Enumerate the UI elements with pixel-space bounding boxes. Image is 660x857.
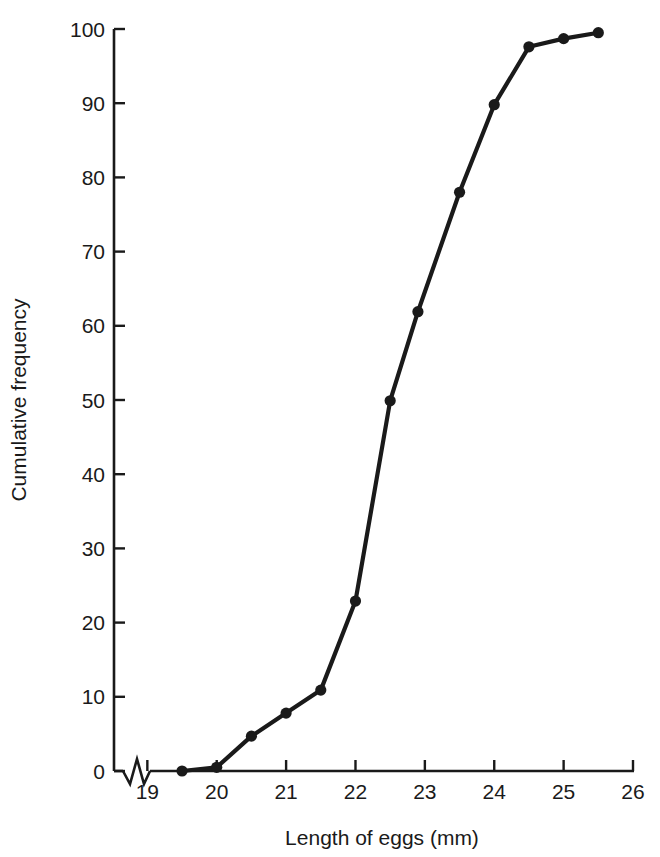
data-point [523, 41, 534, 52]
x-axis-tick-label: 25 [552, 780, 575, 803]
data-point [281, 708, 292, 719]
y-axis-tick-label: 100 [70, 18, 105, 41]
x-axis-tick-label: 19 [136, 780, 159, 803]
y-axis-tick-label: 80 [82, 166, 105, 189]
y-axis: 0102030405060708090100 [70, 18, 125, 783]
data-point [211, 762, 222, 773]
x-axis-tick-label: 22 [344, 780, 367, 803]
y-axis-tick-label: 0 [93, 760, 105, 783]
y-axis-tick-label: 20 [82, 611, 105, 634]
y-axis-tick-label: 60 [82, 314, 105, 337]
x-axis-title: Length of eggs (mm) [285, 826, 479, 849]
data-point [315, 685, 326, 696]
data-point [412, 306, 423, 317]
data-point [593, 27, 604, 38]
data-point [385, 395, 396, 406]
y-axis-tick-label: 10 [82, 685, 105, 708]
x-axis-tick-label: 21 [274, 780, 297, 803]
data-point [246, 731, 257, 742]
x-axis: 1920212223242526 [114, 760, 645, 803]
cumulative-frequency-chart: 0102030405060708090100 1920212223242526 … [0, 0, 660, 857]
y-axis-tick-label: 50 [82, 389, 105, 412]
x-axis-tick-label: 20 [205, 780, 228, 803]
x-axis-tick-label: 24 [483, 780, 507, 803]
y-axis-tick-label: 40 [82, 463, 105, 486]
data-series [176, 27, 603, 776]
data-point [489, 99, 500, 110]
y-axis-tick-label: 30 [82, 537, 105, 560]
data-point [454, 187, 465, 198]
y-axis-tick-label: 90 [82, 92, 105, 115]
y-axis-title: Cumulative frequency [7, 298, 30, 502]
x-axis-tick-label: 23 [413, 780, 436, 803]
y-axis-tick-label: 70 [82, 240, 105, 263]
chart-canvas: 0102030405060708090100 1920212223242526 … [0, 0, 660, 857]
data-point [558, 33, 569, 44]
data-point [350, 595, 361, 606]
data-point [176, 765, 187, 776]
x-axis-tick-label: 26 [621, 780, 644, 803]
